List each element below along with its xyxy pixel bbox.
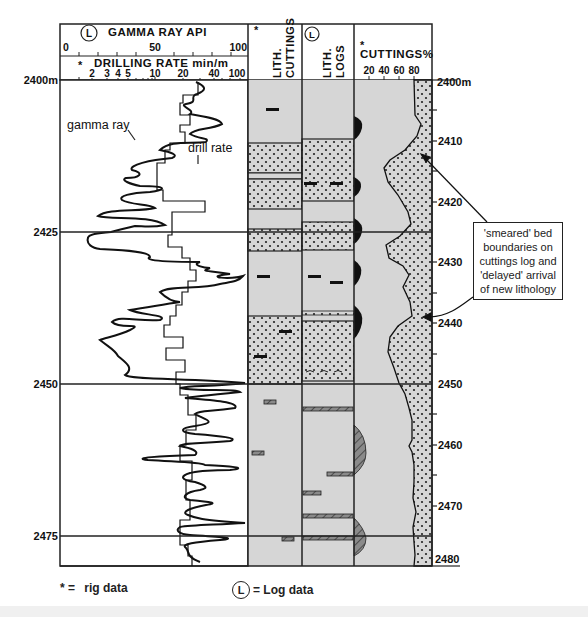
lith-cuttings-title-1: LITH. xyxy=(271,48,283,78)
svg-text:2425: 2425 xyxy=(34,226,58,238)
svg-text:2480: 2480 xyxy=(435,553,459,565)
svg-text:2470: 2470 xyxy=(438,500,462,512)
svg-text:2450: 2450 xyxy=(34,378,58,390)
lith-logs-title-2: LOGS xyxy=(334,45,346,78)
log-header: L GAMMA RAY API 0 50 100 * DRILLING RATE… xyxy=(60,18,434,80)
rig-data-marker-icon: * xyxy=(78,59,83,71)
gamma-ray-title: GAMMA RAY API xyxy=(108,26,207,38)
cuttings-pct-title: CUTTINGS% xyxy=(360,48,434,60)
left-depth-axis: 2400m 2425 2450 2475 xyxy=(24,74,58,542)
annotation-box: 'smeared' bed boundaries on cuttings log… xyxy=(473,222,563,300)
svg-text:60: 60 xyxy=(393,65,405,76)
svg-text:4: 4 xyxy=(115,68,121,79)
svg-text:L: L xyxy=(309,29,315,40)
svg-text:5: 5 xyxy=(125,68,131,79)
svg-text:2400m: 2400m xyxy=(437,76,471,88)
gamma-tick-0: 0 xyxy=(63,41,69,53)
svg-text:2: 2 xyxy=(89,68,95,79)
lith-cuttings-title-2: CUTTINGS xyxy=(284,18,296,78)
well-log-diagram: L GAMMA RAY API 0 50 100 * DRILLING RATE… xyxy=(0,0,588,617)
svg-text:2440: 2440 xyxy=(438,317,462,329)
rig-data-text: rig data xyxy=(84,581,127,595)
svg-text:20: 20 xyxy=(363,65,375,76)
svg-text:2475: 2475 xyxy=(34,530,58,542)
svg-text:40: 40 xyxy=(208,68,220,79)
log-data-marker-icon: L xyxy=(232,581,250,599)
svg-text:2460: 2460 xyxy=(438,439,462,451)
gamma-tick-100: 100 xyxy=(229,41,247,53)
svg-text:100: 100 xyxy=(229,68,246,79)
bottom-margin xyxy=(0,606,588,617)
rig-data-marker-icon: * xyxy=(254,24,259,36)
gamma-tick-50: 50 xyxy=(149,41,161,53)
legend-log-data: L = Log data xyxy=(232,581,313,599)
cuttings-percent-column xyxy=(354,80,432,566)
legend-rig-data: * = rig data xyxy=(60,581,128,595)
svg-text:2420: 2420 xyxy=(438,196,462,208)
lith-logs-column xyxy=(302,80,354,566)
svg-text:40: 40 xyxy=(378,65,390,76)
svg-text:2430: 2430 xyxy=(438,256,462,268)
rig-data-marker-icon: * = xyxy=(60,581,75,595)
svg-text:80: 80 xyxy=(408,65,420,76)
drill-rate-label: drill rate xyxy=(188,141,233,155)
svg-text:2410: 2410 xyxy=(438,135,462,147)
log-marker-letter: L xyxy=(86,28,92,39)
svg-text:2400m: 2400m xyxy=(24,74,58,86)
svg-text:2450: 2450 xyxy=(438,378,462,390)
svg-text:20: 20 xyxy=(177,68,189,79)
svg-text:3: 3 xyxy=(104,68,110,79)
lith-cuttings-column xyxy=(248,80,302,566)
lith-logs-title-1: LITH. xyxy=(321,48,333,78)
log-data-text: = Log data xyxy=(253,583,313,597)
gamma-ray-label: gamma ray xyxy=(67,118,130,132)
right-depth-axis: 2400m 2410 2420 2430 2440 2450 2460 2470… xyxy=(432,76,471,566)
